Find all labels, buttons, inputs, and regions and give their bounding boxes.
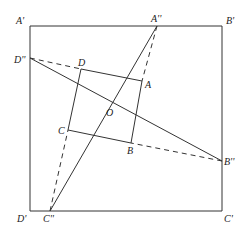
dashed-line — [131, 143, 222, 161]
label-d-double-prime: D'' — [13, 54, 26, 65]
label-b: B — [127, 145, 133, 156]
label-a: A — [144, 79, 152, 90]
label-a-double-prime: A'' — [150, 13, 162, 24]
outer-square — [30, 26, 222, 211]
label-c-prime: C' — [224, 213, 234, 224]
solid-line — [50, 26, 157, 211]
label-a-prime: A' — [15, 15, 25, 26]
label-c: C — [58, 125, 65, 136]
dashed-line — [30, 58, 81, 69]
label-c-double-prime: C'' — [43, 213, 55, 224]
geometry-diagram: A' B' C' D' A B C D O A'' B'' C'' D'' — [0, 0, 250, 233]
label-b-prime: B' — [226, 15, 235, 26]
inner-square — [68, 69, 142, 143]
label-b-double-prime: B'' — [224, 156, 235, 167]
dashed-lines — [30, 26, 222, 211]
dashed-line — [50, 130, 68, 211]
dashed-line — [142, 26, 157, 81]
solid-line — [30, 58, 222, 161]
solid-lines — [30, 26, 222, 211]
label-d: D — [77, 57, 86, 68]
label-d-prime: D' — [16, 213, 27, 224]
label-o: O — [106, 107, 113, 118]
